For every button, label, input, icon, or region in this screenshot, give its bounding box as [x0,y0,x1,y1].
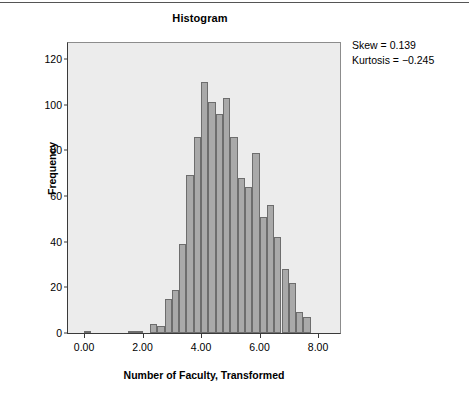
x-tick-label: 4.00 [191,341,211,353]
x-tick-mark [143,333,144,338]
histogram-bar [157,326,164,333]
histogram-bar [267,205,274,333]
histogram-bar [194,137,201,333]
histogram-bar [135,331,142,333]
y-tick-label: 100 [26,99,68,111]
histogram-bar [84,331,91,333]
histogram-bar [223,98,230,333]
x-tick-mark [84,333,85,338]
y-tick-label: 20 [26,281,68,293]
histogram-bar [296,312,303,333]
plot-panel: Frequency 0204060801001200.002.004.006.0… [67,42,341,334]
histogram-bar [150,324,157,333]
histogram-bar [252,153,259,333]
top-divider [0,2,469,3]
histogram-bar [201,82,208,333]
histogram-bar [238,178,245,333]
x-tick-label: 2.00 [132,341,152,353]
statistics-annotation: Skew = 0.139 Kurtosis = −0.245 [352,38,434,68]
histogram-bar [179,244,186,333]
histogram-bar [172,290,179,333]
histogram-bar [186,175,193,333]
plot-area [68,43,340,333]
x-tick-mark [201,333,202,338]
y-tick-label: 60 [26,190,68,202]
histogram-bar [230,137,237,333]
x-tick-label: 0.00 [74,341,94,353]
histogram-bar [303,317,310,333]
histogram-bar [128,331,135,333]
x-tick-label: 6.00 [249,341,269,353]
histogram-bar [208,102,215,333]
chart-title: Histogram [0,12,400,24]
histogram-bar [260,217,267,333]
kurtosis-annotation: Kurtosis = −0.245 [352,53,434,68]
y-tick-label: 120 [26,53,68,65]
x-tick-mark [318,333,319,338]
y-tick-label: 80 [26,144,68,156]
y-tick-label: 0 [26,327,68,339]
histogram-bar [274,237,281,333]
x-axis-label: Number of Faculty, Transformed [67,369,341,381]
x-tick-mark [260,333,261,338]
x-tick-label: 8.00 [308,341,328,353]
histogram-bar [289,283,296,333]
figure-canvas: Histogram Skew = 0.139 Kurtosis = −0.245… [0,0,469,394]
histogram-bar [165,299,172,333]
skew-annotation: Skew = 0.139 [352,38,434,53]
y-tick-label: 40 [26,236,68,248]
histogram-bar [216,114,223,333]
histogram-bar [282,269,289,333]
histogram-bar [245,187,252,333]
